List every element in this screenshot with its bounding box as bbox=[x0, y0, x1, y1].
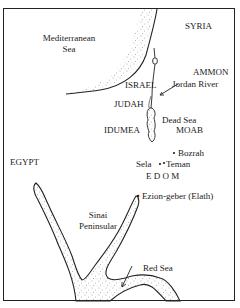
label-mediterranean: Mediterranean bbox=[29, 34, 109, 43]
label-sea: Sea bbox=[29, 45, 109, 54]
label-red-sea: Red Sea bbox=[143, 264, 173, 273]
dead-sea bbox=[147, 108, 155, 142]
label-idumea: IDUMEA bbox=[104, 126, 140, 135]
label-israel: ISRAEL bbox=[125, 81, 157, 90]
label-bozrah: Bozrah bbox=[178, 149, 204, 158]
label-jordan-river: Jordan River bbox=[172, 80, 218, 89]
label-peninsular: Peninsular bbox=[68, 222, 128, 231]
label-egypt: EGYPT bbox=[10, 158, 39, 167]
label-ammon: AMMON bbox=[193, 68, 229, 77]
teman-dot bbox=[163, 162, 165, 164]
label-moab: MOAB bbox=[176, 126, 203, 135]
sela-dot bbox=[159, 163, 161, 165]
ezion-geber-dot bbox=[137, 195, 140, 198]
sea-of-galilee bbox=[153, 58, 158, 64]
label-teman: Teman bbox=[166, 160, 190, 169]
border-line bbox=[149, 96, 151, 108]
label-syria: SYRIA bbox=[185, 22, 212, 31]
label-edom: E D O M bbox=[146, 172, 179, 181]
label-sinai: Sinai bbox=[68, 211, 128, 220]
jordan-river bbox=[151, 48, 155, 108]
label-sela: Sela bbox=[136, 160, 152, 169]
label-dead-sea: Dead Sea bbox=[162, 116, 196, 125]
label-ezion-geber: Ezion-geber (Elath) bbox=[142, 192, 213, 201]
label-judah: JUDAH bbox=[114, 100, 144, 109]
bozrah-dot bbox=[173, 152, 175, 154]
